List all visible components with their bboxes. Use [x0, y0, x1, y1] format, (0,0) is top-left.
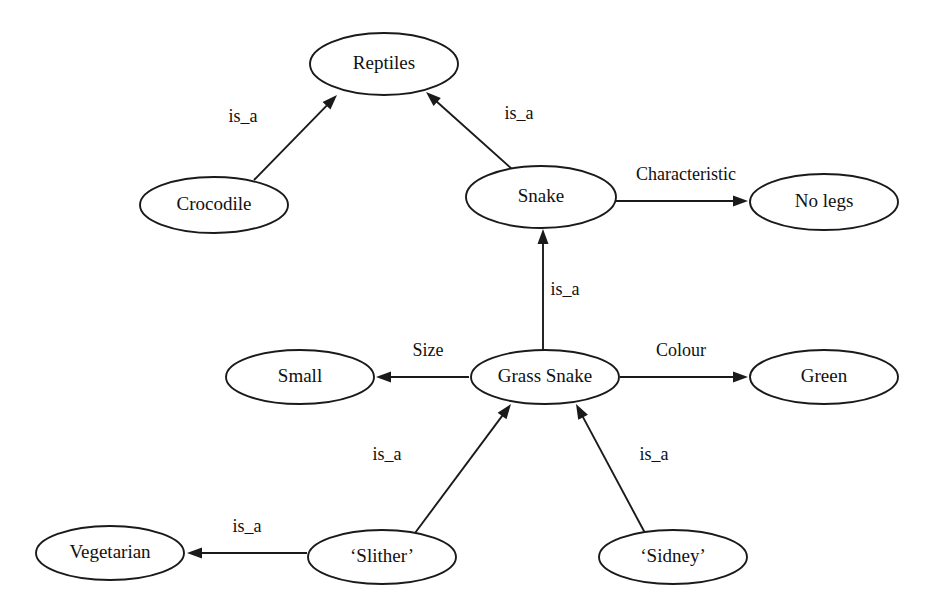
node-label-reptiles: Reptiles: [353, 52, 415, 73]
edge-label-crocodile-is_a-reptiles: is_a: [229, 106, 258, 126]
node-crocodile[interactable]: Crocodile: [140, 177, 288, 233]
edge-label-slither-is_a-grasssnake: is_a: [373, 444, 402, 464]
edge-slither-is_a-grasssnake: [415, 404, 511, 533]
edge-label-grasssnake-size-small: Size: [413, 340, 444, 360]
arrow-head-icon: [576, 404, 588, 420]
arrow-head-icon: [733, 372, 748, 383]
node-label-crocodile: Crocodile: [177, 193, 252, 214]
node-label-vegetarian: Vegetarian: [69, 541, 151, 562]
edge-sidney-is_a-grasssnake: [576, 404, 645, 533]
arrow-head-icon: [538, 229, 549, 244]
node-label-grass_snake: Grass Snake: [498, 365, 592, 386]
edge-snake-characteristic-nolegs: [616, 196, 748, 207]
node-label-sidney: ‘Sidney’: [640, 545, 705, 566]
edge-snake-is_a-reptiles: [426, 92, 513, 170]
arrow-head-icon: [498, 404, 511, 419]
node-grass_snake[interactable]: Grass Snake: [471, 350, 619, 404]
edge-grasssnake-size-small: [376, 372, 469, 383]
edge-crocodile-is_a-reptiles: [254, 95, 337, 180]
node-green[interactable]: Green: [750, 350, 898, 404]
node-sidney[interactable]: ‘Sidney’: [599, 530, 747, 584]
arrow-head-icon: [733, 196, 748, 207]
node-label-green: Green: [801, 365, 848, 386]
node-label-snake: Snake: [518, 185, 564, 206]
edge-grasssnake-is_a-snake: [538, 229, 549, 350]
edge-label-sidney-is_a-grasssnake: is_a: [640, 444, 669, 464]
node-label-small: Small: [278, 365, 322, 386]
semantic-network-canvas: ReptilesCrocodileSnakeNo legsSmallGrass …: [0, 0, 927, 615]
edge-label-snake-is_a-reptiles: is_a: [505, 103, 534, 123]
arrow-head-icon: [376, 372, 391, 383]
semantic-network-diagram: ReptilesCrocodileSnakeNo legsSmallGrass …: [0, 0, 927, 615]
edge-grasssnake-colour-green: [620, 372, 748, 383]
arrow-head-icon: [187, 548, 202, 559]
node-label-no_legs: No legs: [795, 190, 854, 211]
node-snake[interactable]: Snake: [466, 166, 616, 228]
node-label-slither: ‘Slither’: [350, 545, 414, 566]
edge-labels-layer: is_ais_aCharacteristicis_aSizeColouris_a…: [229, 103, 736, 536]
node-small[interactable]: Small: [226, 350, 374, 404]
edge-slither-is_a-vegetarian: [187, 548, 307, 559]
node-no_legs[interactable]: No legs: [750, 174, 898, 230]
node-reptiles[interactable]: Reptiles: [310, 33, 458, 95]
nodes-layer: ReptilesCrocodileSnakeNo legsSmallGrass …: [36, 33, 898, 584]
edge-label-grasssnake-is_a-snake: is_a: [551, 279, 580, 299]
edge-label-snake-characteristic-nolegs: Characteristic: [636, 164, 736, 184]
edge-label-grasssnake-colour-green: Colour: [656, 340, 706, 360]
edges-layer: [187, 92, 748, 559]
edge-label-slither-is_a-vegetarian: is_a: [233, 516, 262, 536]
node-slither[interactable]: ‘Slither’: [308, 530, 456, 584]
node-vegetarian[interactable]: Vegetarian: [36, 526, 184, 580]
